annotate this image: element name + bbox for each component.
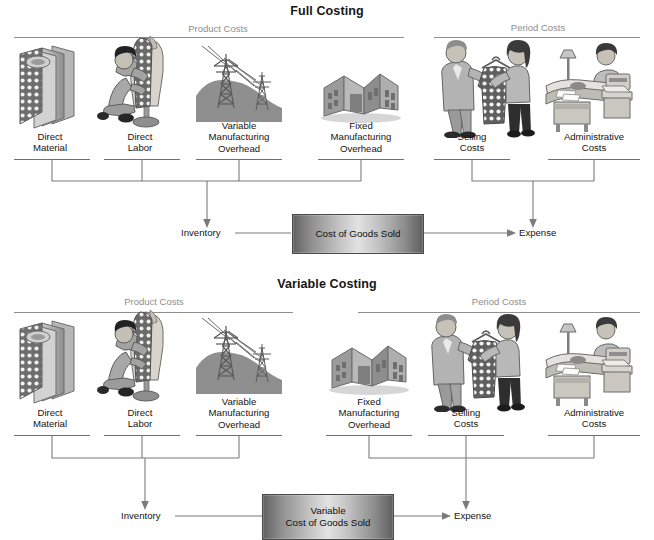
salesperson-customer-icon-variable [422,312,526,412]
cost-item-rule-selling-costs-variable [428,435,504,436]
panel-variable-costing: Variable Costing Product Costs Period Co… [0,266,654,531]
office-desk-icon-variable [542,316,638,408]
cost-item-rule-direct-material [14,159,90,160]
cost-item-rule-fixed-moh-variable [326,435,412,436]
tailor-mannequin-icon-variable [96,304,180,404]
cost-item-label-administrative-costs: Administrative Costs [545,131,643,154]
cost-item-rule-administrative-costs-variable [548,435,640,436]
destination-label-inventory-variable: Inventory [121,510,160,521]
power-lines-icon [196,46,282,122]
destination-label-inventory: Inventory [181,227,220,238]
cost-of-goods-sold-box: Cost of Goods Sold [292,214,424,254]
cost-item-rule-direct-labor [104,159,180,160]
group-rule-product-costs [14,37,404,38]
cost-item-label-variable-moh-variable: Variable Manufacturing Overhead [192,396,286,430]
cost-item-label-selling-costs-variable: Selling Costs [426,407,506,430]
cost-item-label-direct-labor-variable: Direct Labor [98,407,182,430]
cost-item-label-direct-labor: Direct Labor [98,131,182,154]
cost-item-rule-direct-labor-variable [104,435,180,436]
cost-item-label-fixed-moh: Fixed Manufacturing Overhead [314,120,408,154]
page-title-variable-costing: Variable Costing [0,277,654,291]
cost-item-rule-selling-costs [434,159,510,160]
cost-item-rule-fixed-moh [318,159,404,160]
cost-of-goods-sold-label: Cost of Goods Sold [316,228,401,240]
cost-item-label-direct-material-variable: Direct Material [8,407,92,430]
fabric-bolts-icon-variable [12,317,90,405]
factory-icon [318,66,404,124]
panel-full-costing: Full Costing Product Costs Period Costs [0,0,654,266]
destination-label-expense-variable: Expense [454,510,491,521]
tailor-mannequin-icon [96,30,180,130]
variable-cost-of-goods-sold-label: Variable Cost of Goods Sold [286,505,371,528]
group-label-period-costs: Period Costs [478,22,598,33]
cost-item-rule-direct-material-variable [14,435,90,436]
group-label-period-costs-variable: Period Costs [439,296,559,307]
cost-item-label-selling-costs: Selling Costs [432,131,512,154]
salesperson-customer-icon [432,38,536,138]
page-title-full-costing: Full Costing [0,4,654,18]
variable-cost-of-goods-sold-box: Variable Cost of Goods Sold [262,494,394,540]
cost-item-label-fixed-moh-variable: Fixed Manufacturing Overhead [322,396,416,430]
fabric-bolts-icon [12,42,90,130]
cost-item-label-direct-material: Direct Material [8,131,92,154]
cost-item-rule-administrative-costs [548,159,640,160]
factory-icon-variable [326,338,412,396]
cost-item-rule-variable-moh-variable [196,435,282,436]
office-desk-icon [542,42,638,134]
cost-item-rule-variable-moh [196,159,282,160]
power-lines-icon-variable [196,318,282,394]
destination-label-expense: Expense [519,227,556,238]
cost-item-label-variable-moh: Variable Manufacturing Overhead [192,120,286,154]
cost-item-label-administrative-costs-variable: Administrative Costs [545,407,643,430]
